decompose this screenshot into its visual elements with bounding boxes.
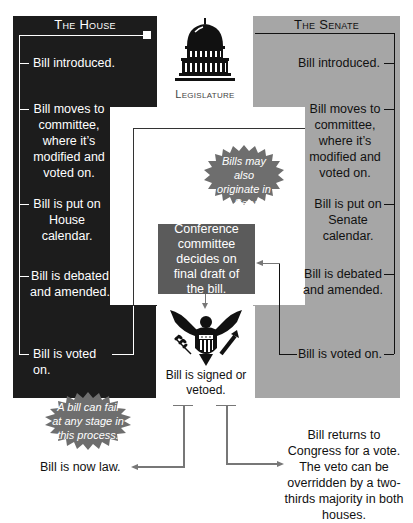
house-tick: [19, 63, 29, 64]
house-step-1: Bill introduced.: [33, 55, 143, 71]
outcome-law: Bill is now law.: [40, 459, 136, 475]
arrow-left-icon: [256, 260, 263, 266]
president-label: Bill is signed or vetoed.: [163, 368, 249, 398]
senate-flow-line-top: [255, 33, 394, 34]
fail-note-burst: A bill can fail at any stage in this pro…: [44, 392, 132, 450]
outcome-veto: Bill returns to Congress for a vote. The…: [282, 427, 406, 523]
senate-flow-line-vertical: [394, 33, 395, 354]
senate-step-3: Bill is put on Senate calendar.: [306, 196, 390, 244]
house-flow-line-top: [19, 35, 148, 36]
originate-note-burst: Bills may also originate in the Senate.: [203, 145, 285, 205]
house-step-4: Bill is debated and amended.: [30, 268, 110, 300]
senate-to-conference-horizontal: [262, 263, 280, 264]
fail-note-text: A bill can fail at any stage in this pro…: [52, 400, 124, 442]
conference-committee-label: Conference committee decides on final dr…: [164, 222, 250, 297]
house-to-conference-line: [112, 354, 134, 355]
sign-branch-vertical: [183, 405, 185, 467]
house-to-conference-vertical-white-area: [133, 128, 134, 306]
legislature-label: Legislature: [157, 88, 253, 100]
senate-step-1: Bill introduced.: [280, 55, 380, 71]
house-step-2: Bill moves to committee, where it’s modi…: [33, 101, 105, 181]
house-start-marker: [143, 31, 151, 39]
house-tick: [19, 276, 29, 277]
senate-tick: [384, 63, 394, 64]
house-step-5: Bill is voted on.: [33, 346, 113, 378]
veto-branch-horizontal: [226, 463, 278, 465]
house-tick: [19, 109, 29, 110]
originate-note-text: Bills may also originate in the Senate.: [212, 154, 276, 210]
senate-to-conference-vertical: [279, 263, 280, 355]
sign-branch-horizontal: [137, 466, 185, 468]
senate-step-2: Bill moves to committee, where it’s modi…: [308, 101, 382, 181]
senate-tick: [384, 354, 394, 355]
senate-step-5: Bill is voted on.: [290, 346, 382, 362]
senate-title: The Senate: [253, 17, 400, 32]
senate-step-4: Bill is debated and amended.: [300, 266, 386, 298]
presidential-eagle-seal-icon: [165, 308, 247, 368]
conference-committee-box: Conference committee decides on final dr…: [158, 224, 255, 294]
mid-frame-top: [133, 128, 305, 129]
house-title: The House: [13, 17, 157, 32]
capitol-dome-icon: [173, 18, 237, 88]
veto-branch-vertical: [226, 405, 228, 465]
house-step-3: Bill is put on House calendar.: [24, 196, 110, 244]
senate-tick: [384, 109, 394, 110]
house-tick: [19, 354, 29, 355]
house-flow-line-vertical: [19, 35, 20, 354]
